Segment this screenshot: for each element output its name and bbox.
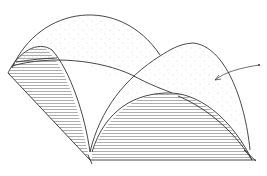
shell-structure-illustration bbox=[0, 0, 267, 176]
